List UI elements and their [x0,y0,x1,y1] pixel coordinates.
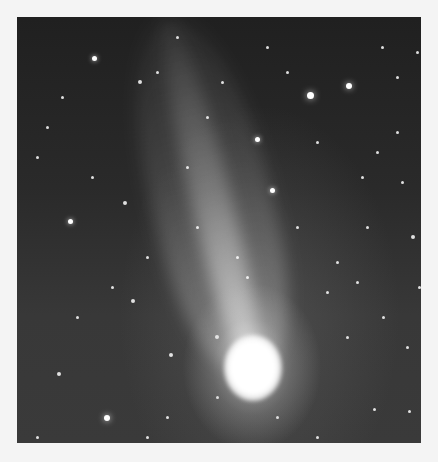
star [166,416,169,419]
star [346,83,352,89]
star [76,316,79,319]
star [92,56,97,61]
star [169,353,173,357]
star [186,166,189,169]
star [361,176,364,179]
star [61,96,64,99]
star [396,131,399,134]
star [411,235,415,239]
star [131,299,135,303]
star [356,281,359,284]
star [236,256,239,259]
star [373,408,376,411]
star [406,346,409,349]
star [57,372,61,376]
star [46,126,49,129]
star [296,226,299,229]
star [366,226,369,229]
star [176,36,179,39]
star [206,116,209,119]
star [91,176,94,179]
star [307,92,314,99]
star [270,188,275,193]
star [196,226,199,229]
star [123,201,127,205]
star [316,141,319,144]
star [418,286,421,289]
star [286,71,289,74]
star [156,71,159,74]
star [381,46,384,49]
star [111,286,114,289]
star [326,291,329,294]
star [336,261,339,264]
star [408,410,411,413]
star [221,81,224,84]
star [401,181,404,184]
star [316,436,319,439]
star [382,316,385,319]
star [146,436,149,439]
star [376,151,379,154]
star [68,219,73,224]
star [104,415,110,421]
comet-photo [17,17,421,443]
star [138,80,142,84]
star [36,156,39,159]
star [255,137,260,142]
star [246,276,249,279]
comet-nucleus [224,335,282,401]
star [346,336,349,339]
star [36,436,39,439]
star [146,256,149,259]
star [416,51,419,54]
star [396,76,399,79]
star [266,46,269,49]
